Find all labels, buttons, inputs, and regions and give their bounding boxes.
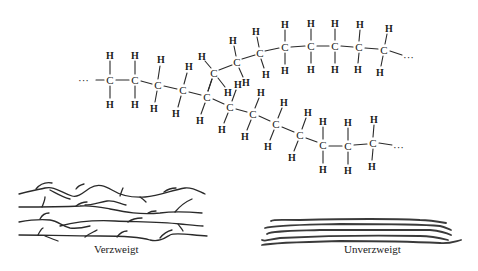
hydrogen-atom: H <box>185 61 193 72</box>
hydrogen-atom: H <box>368 161 376 172</box>
hydrogen-atom: H <box>257 87 265 98</box>
hydrogen-atom: H <box>331 18 339 29</box>
hydrogen-atom: H <box>331 64 339 75</box>
branched-label: Verzweigt <box>94 243 139 255</box>
hydrogen-atom: H <box>234 79 242 90</box>
branched-chains-schematic <box>19 183 207 241</box>
carbon-atom: C <box>233 56 240 68</box>
hydrogen-atom: H <box>262 69 270 80</box>
unbranched-chains-schematic <box>262 219 461 245</box>
hydrogen-atom: H <box>385 23 393 34</box>
hydrogen-atom: H <box>157 54 165 65</box>
carbon-atom: C <box>131 74 138 86</box>
carbon-atom: C <box>210 67 217 79</box>
hydrogen-atom: H <box>319 116 327 127</box>
hydrogen-atom: H <box>264 141 272 152</box>
carbon-atom-branch-point: C <box>203 91 210 103</box>
hydrogen-atom: H <box>344 117 352 128</box>
hydrogen-atom: H <box>281 19 289 30</box>
hydrogen-atom: H <box>131 50 139 61</box>
hydrogen-atom: H <box>252 26 260 37</box>
hydrogen-atom: H <box>218 124 226 135</box>
carbon-atom: C <box>256 47 263 59</box>
carbon-atom: C <box>307 40 314 52</box>
polyethylene-diagram: ··· ··· <box>0 0 478 271</box>
hydrogen-atom: H <box>319 164 327 175</box>
hydrogen-atom: H <box>356 19 364 30</box>
hydrogen-atom: H <box>241 131 249 142</box>
carbon-atom: C <box>369 137 376 149</box>
carbon-atom: C <box>179 84 186 96</box>
hydrogen-atom: H <box>229 35 237 46</box>
hydrogen-atom: H <box>354 64 362 75</box>
chain-continuation-right: ··· <box>393 141 404 153</box>
carbon-atom: C <box>226 101 233 113</box>
hydrogen-atom: H <box>198 51 206 62</box>
branch-continuation: ··· <box>403 51 414 63</box>
hydrogen-atom: H <box>288 152 296 163</box>
hydrogen-atom: H <box>224 87 232 98</box>
hydrogen-atom: H <box>304 107 312 118</box>
chain-continuation-left: ··· <box>78 74 89 86</box>
hydrogen-atom: H <box>172 108 180 119</box>
hydrogen-atom: H <box>106 99 114 110</box>
hydrogen-atom: H <box>131 99 139 110</box>
carbon-atom: C <box>380 44 387 56</box>
hydrogen-atom: H <box>307 64 315 75</box>
hydrogen-atom: H <box>376 67 384 78</box>
hydrogen-atom: H <box>106 50 114 61</box>
carbon-atom: C <box>319 139 326 151</box>
carbon-atom: C <box>355 41 362 53</box>
carbon-atom: C <box>296 129 303 141</box>
hydrogen-atom: H <box>242 77 250 88</box>
carbon-atom: C <box>249 108 256 120</box>
carbon-atom: C <box>344 140 351 152</box>
carbon-atom: C <box>106 74 113 86</box>
hydrogen-atom: H <box>307 18 315 29</box>
carbon-atom: C <box>272 118 279 130</box>
hydrogen-atom: H <box>344 165 352 176</box>
hydrogen-atom: H <box>370 114 378 125</box>
hydrogen-atom: H <box>280 97 288 108</box>
hydrogen-atom: H <box>281 65 289 76</box>
hydrogen-atom: H <box>196 115 204 126</box>
carbon-atom: C <box>331 40 338 52</box>
hydrogen-atom: H <box>150 103 158 114</box>
carbon-atom: C <box>154 79 161 91</box>
carbon-atom: C <box>281 41 288 53</box>
unbranched-label: Unverzweigt <box>344 243 401 255</box>
branch-chain: ··· C C C C C C C C H <box>198 18 414 98</box>
